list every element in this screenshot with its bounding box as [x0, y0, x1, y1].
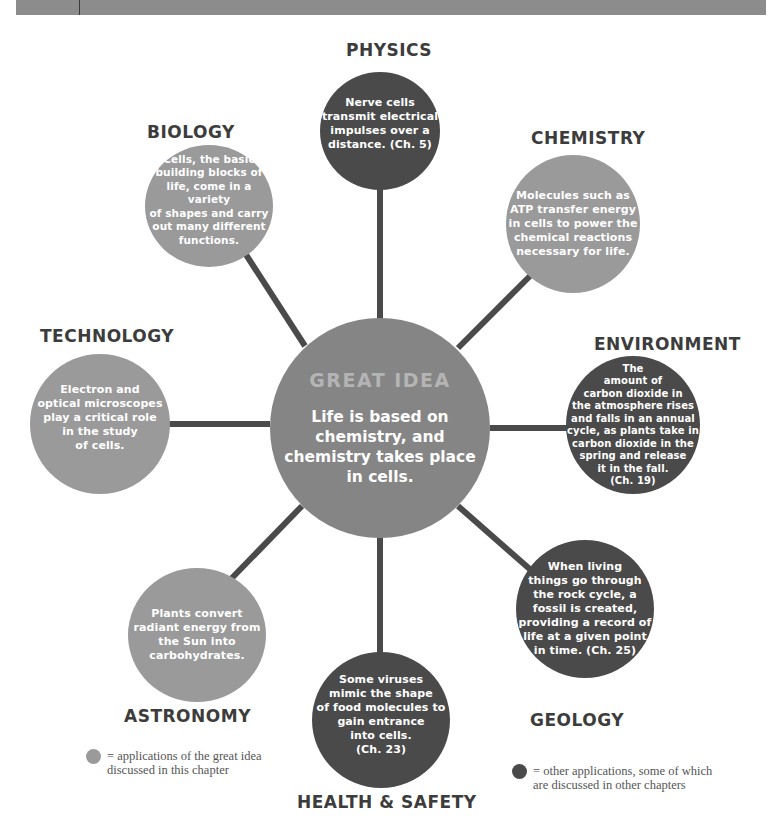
circle-physics: Nerve cells transmit electrical impulses…	[320, 72, 440, 190]
circle-geology: When living things go through the rock c…	[516, 540, 654, 678]
connector-biology	[243, 250, 305, 346]
circle-chemistry: Molecules such as ATP transfer energy in…	[506, 155, 640, 293]
physics-text: Nerve cells transmit electrical impulses…	[322, 96, 438, 152]
label-astronomy: ASTRONOMY	[124, 706, 251, 726]
legend-light-text: = applications of the great idea discuss…	[107, 749, 262, 777]
great-idea-title: GREAT IDEA	[309, 369, 451, 391]
legend-light-dot-icon	[86, 749, 101, 764]
health-safety-text: Some viruses mimic the shape of food mol…	[317, 673, 446, 757]
legend-dark-dot-icon	[512, 764, 527, 779]
circle-astronomy: Plants convert radiant energy from the S…	[128, 568, 266, 702]
label-technology: TECHNOLOGY	[40, 326, 174, 346]
connector-astronomy	[230, 506, 302, 580]
label-physics: PHYSICS	[346, 40, 432, 60]
environment-text: The amount of carbon dioxide in the atmo…	[567, 363, 699, 488]
label-health-safety: HEALTH & SAFETY	[297, 792, 477, 812]
label-environment: ENVIRONMENT	[594, 334, 741, 354]
circle-biology: Cells, the basic building blocks of life…	[145, 145, 273, 267]
great-idea-circle: GREAT IDEA Life is based on chemistry, a…	[270, 318, 490, 538]
circle-environment: The amount of carbon dioxide in the atmo…	[566, 356, 700, 494]
connector-chemistry	[458, 276, 530, 348]
legend-dark-text: = other applications, some of which are …	[533, 764, 712, 792]
label-chemistry: CHEMISTRY	[531, 128, 645, 148]
technology-text: Electron and optical microscopes play a …	[37, 383, 162, 453]
label-biology: BIOLOGY	[147, 122, 235, 142]
great-idea-text: Life is based on chemistry, and chemistr…	[284, 407, 475, 487]
legend-dark: = other applications, some of which are …	[512, 764, 712, 792]
geology-text: When living things go through the rock c…	[519, 560, 652, 658]
label-geology: GEOLOGY	[530, 710, 624, 730]
circle-health-safety: Some viruses mimic the shape of food mol…	[312, 652, 450, 788]
circle-technology: Electron and optical microscopes play a …	[30, 354, 170, 494]
biology-text: Cells, the basic building blocks of life…	[145, 153, 273, 248]
chemistry-text: Molecules such as ATP transfer energy in…	[509, 189, 638, 259]
astronomy-text: Plants convert radiant energy from the S…	[133, 607, 260, 663]
legend-light: = applications of the great idea discuss…	[86, 749, 262, 777]
